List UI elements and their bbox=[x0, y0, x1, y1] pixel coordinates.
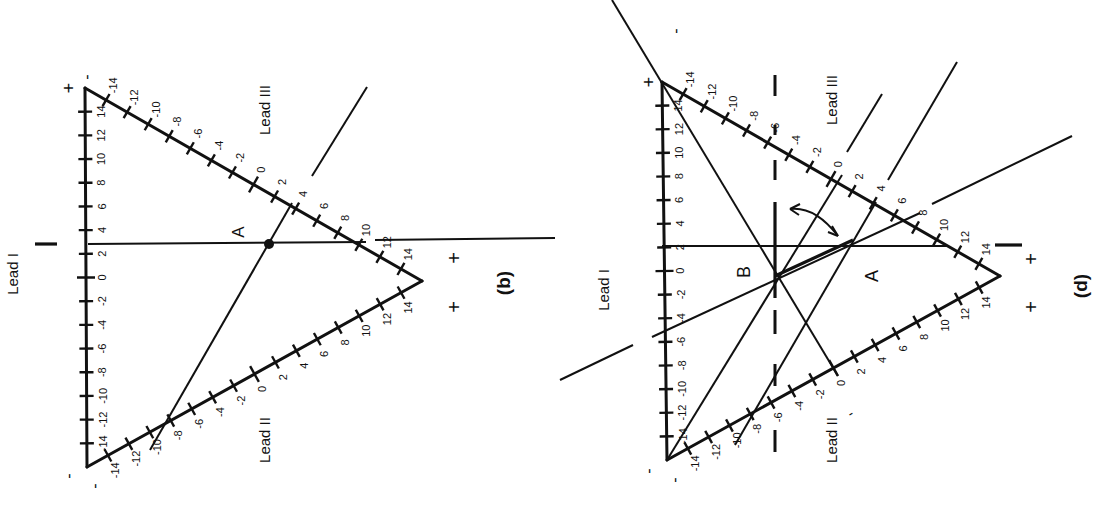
lead-iii-label: Lead III bbox=[256, 85, 273, 135]
lead-i-tick-label: -6 bbox=[675, 337, 687, 347]
lead-ii-tick-label: 0 bbox=[256, 386, 268, 392]
lead-ii-tick-label: -14 bbox=[109, 462, 121, 478]
lead-ii-tick-label: -6 bbox=[772, 412, 784, 422]
lead-iii-tick-label: 8 bbox=[339, 215, 351, 221]
lead-iii-tick-label: 10 bbox=[938, 219, 950, 231]
lead-i-tick-label: -8 bbox=[676, 360, 688, 370]
plus-sign-right-2: + bbox=[1020, 301, 1042, 313]
lead-i-tick-label: -4 bbox=[96, 320, 108, 330]
lead-iii-tick-label: 4 bbox=[297, 191, 309, 197]
einthoven-figure: -14-12-10-8-6-4-202468101214-14-12-10-8-… bbox=[0, 0, 1101, 517]
lead-ii-tick-label: -12 bbox=[130, 451, 142, 467]
lead-i-tick-label: -10 bbox=[676, 381, 688, 397]
plus-sign-right-1: + bbox=[1020, 253, 1042, 265]
point-a-dot bbox=[264, 239, 274, 249]
lead-i-perpendicular bbox=[88, 242, 366, 244]
lead-i-tick-label: 12 bbox=[673, 123, 685, 135]
lead-i-label: Lead I bbox=[595, 269, 612, 311]
lead-ii-label: Lead II bbox=[823, 417, 840, 463]
minus-sign-bottom-2: - bbox=[666, 477, 683, 482]
minus-sign-bottom-2: - bbox=[86, 483, 103, 488]
lead-i-tick-label: 8 bbox=[673, 173, 685, 179]
lead-iii-tick-label: 12 bbox=[381, 236, 393, 248]
lead-ii-tick-label: 8 bbox=[339, 339, 351, 345]
lead-ii-label: Lead II bbox=[256, 417, 273, 463]
lead-i-tick-label: 0 bbox=[96, 274, 108, 280]
lead-i-tick-label: 0 bbox=[674, 268, 686, 274]
mean-axis-extension bbox=[932, 136, 1072, 204]
lead-iii-tick-label: -12 bbox=[128, 89, 140, 105]
lead-i-tick-label: -6 bbox=[96, 344, 108, 354]
lead-i-tick-label: -12 bbox=[676, 405, 688, 421]
lead-i-tick-label: 4 bbox=[96, 227, 108, 233]
lead-iii-tick-label: -10 bbox=[150, 101, 162, 117]
lead-ii-tick-label: -12 bbox=[710, 444, 722, 460]
lead-iii-tick-label: -14 bbox=[684, 71, 696, 87]
lead-iii-tick-label: 14 bbox=[980, 243, 992, 255]
lead-iii-tick-label: -8 bbox=[748, 111, 760, 121]
lead-ii-tick-label: 12 bbox=[381, 313, 393, 325]
lead-iii-tick bbox=[249, 177, 258, 193]
lead-iii-tick-label: 6 bbox=[318, 203, 330, 209]
lead-iii-tick-label: -10 bbox=[727, 96, 739, 112]
lead-i-tick-label: 10 bbox=[95, 153, 107, 165]
lead-iii-tick-label: 0 bbox=[832, 161, 844, 167]
lead-ii-tick-label: 14 bbox=[402, 301, 414, 313]
lead-ii-tick-label: -2 bbox=[235, 396, 247, 406]
lead-i-tick-label: -8 bbox=[96, 367, 108, 377]
lead-i-tick-label: 4 bbox=[674, 220, 686, 226]
mean-axis-extension-lower bbox=[560, 345, 633, 380]
point-a-label: A bbox=[229, 226, 248, 238]
lead-i-label: Lead I bbox=[4, 253, 21, 295]
lead-i-tick-label: -2 bbox=[96, 296, 108, 306]
lead-iii-tick-label: -6 bbox=[192, 129, 204, 139]
lead-iii-tick-label: -4 bbox=[790, 135, 802, 145]
line-top-vertex-through-b bbox=[612, 0, 838, 376]
lead-ii-tick-label: 4 bbox=[298, 363, 310, 369]
minus-sign-far: - bbox=[667, 28, 684, 33]
minus-sign-top: - bbox=[78, 74, 95, 79]
caption-b: (b) bbox=[493, 271, 514, 295]
lead-ii-tick-label: 2 bbox=[277, 374, 289, 380]
panel-d: -14-12-10-8-6-4-202468101214-14-12-10-8-… bbox=[560, 0, 1091, 483]
lead-i-tick-label: 12 bbox=[95, 129, 107, 141]
lead-ii-tick-label: -8 bbox=[172, 430, 184, 440]
lead-iii-tick-label: 4 bbox=[875, 185, 887, 191]
lead-iii-tick-label: 6 bbox=[896, 198, 908, 204]
lead-i-tick-label: 14 bbox=[95, 105, 107, 117]
lead-ii-tick-label: -6 bbox=[193, 419, 205, 429]
lead-ii-tick-label: -4 bbox=[793, 401, 805, 411]
minus-sign-bottom-1: - bbox=[640, 468, 657, 473]
lead-ii-tick-label: 6 bbox=[318, 351, 330, 357]
lead-i-perpendicular-extension bbox=[375, 238, 555, 240]
lead-i-tick-label: -10 bbox=[97, 388, 109, 404]
lead-iii-tick-label: 10 bbox=[360, 224, 372, 236]
lead-ii-tick-label: -4 bbox=[214, 407, 226, 417]
lead-iii-tick-label: 0 bbox=[255, 167, 267, 173]
lead-ii-tick-label: 10 bbox=[939, 319, 951, 331]
lead-iii-perpendicular-extension bbox=[312, 87, 367, 176]
lead-i-tick-label: 6 bbox=[673, 197, 685, 203]
point-b-label: B bbox=[734, 266, 754, 278]
lead-ii-tick-label: 2 bbox=[855, 368, 867, 374]
caption-d: (d) bbox=[1070, 274, 1091, 298]
lead-iii-tick-label: -14 bbox=[107, 77, 119, 93]
lead-i-tick-label: 6 bbox=[96, 203, 108, 209]
lead-iii-tick-label: 14 bbox=[402, 248, 414, 260]
lead-ii-tick-label: -2 bbox=[814, 389, 826, 399]
lead-i-tick-label: -12 bbox=[97, 412, 109, 428]
plus-sign-top: + bbox=[639, 77, 659, 88]
plus-sign-right-2: + bbox=[443, 301, 465, 313]
lead-ii-tick-label: 0 bbox=[835, 380, 847, 386]
lead-i-tick-label: -14 bbox=[97, 435, 109, 451]
lead-ii-tick-label: 10 bbox=[360, 325, 372, 337]
lead-iii-perpendicular-extension bbox=[888, 62, 957, 180]
lead-ii-tick-label: 8 bbox=[918, 334, 930, 340]
lead-i-tick-label: -2 bbox=[675, 290, 687, 300]
lead-ii-zero-minus: - bbox=[844, 405, 856, 421]
lead-ii-tick-label: -8 bbox=[751, 424, 763, 434]
lead-iii-tick-label: -12 bbox=[706, 84, 718, 100]
line-bottom-vertex-extension bbox=[847, 94, 882, 152]
lead-iii-tick-label: -8 bbox=[171, 117, 183, 127]
lead-i-tick-label: 2 bbox=[96, 251, 108, 257]
